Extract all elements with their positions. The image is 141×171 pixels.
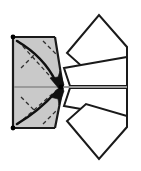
corner-dot-bottom-left — [11, 126, 16, 131]
center-point-dot — [59, 85, 64, 90]
origami-diagram: Origami fold step diagram A shaded squar… — [0, 0, 141, 171]
corner-dot-top-left — [11, 35, 16, 40]
origami-diagram-svg: Origami fold step diagram A shaded squar… — [0, 0, 141, 171]
